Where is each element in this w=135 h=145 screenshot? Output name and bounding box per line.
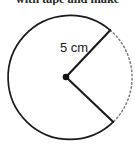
radius-measure-label: 5 cm (60, 40, 88, 55)
circle-diagram: 5 cm (0, 0, 135, 145)
center-point-dot (63, 74, 70, 81)
figure-container: with tape and make 5 cm (0, 0, 135, 145)
solid-major-arc (8, 15, 113, 139)
dashed-minor-arc (110, 30, 132, 122)
